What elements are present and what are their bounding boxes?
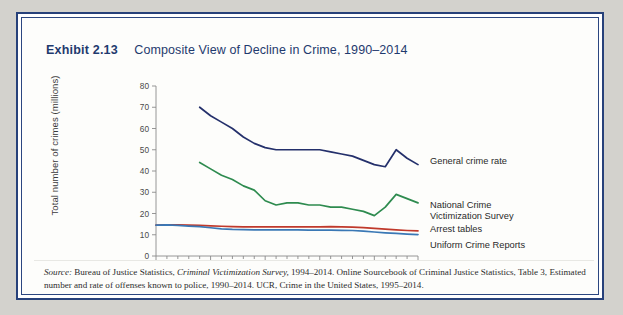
y-tick-label: 10 [140,230,150,240]
series-line [200,107,418,167]
series-line [200,163,418,216]
source-text-b: 1994–2014. Online Sourcebook of Criminal… [289,267,516,277]
exhibit-heading: Exhibit 2.13 Composite View of Decline i… [46,40,408,58]
y-tick-label: 60 [140,124,150,134]
series-label: Uniform Crime Reports [430,240,525,250]
series-label: General crime rate [430,156,507,166]
page-background: Exhibit 2.13 Composite View of Decline i… [0,0,623,315]
exhibit-card-inner-border: Exhibit 2.13 Composite View of Decline i… [21,17,599,295]
source-italic-title: Criminal Victimization Survey, [177,267,289,277]
series-label: Victimization Survey [430,211,514,221]
chart-container: Total number of crimes (millions) 010203… [22,62,610,262]
series-label: Arrest tables [430,224,483,234]
y-tick-label: 20 [140,209,150,219]
source-text-a: Bureau of Justice Statistics, [72,267,177,277]
series-label: National Crime [430,200,491,210]
line-chart: 0102030405060708019901995200020052010201… [22,62,610,262]
source-note: Source: Bureau of Justice Statistics, Cr… [44,266,586,292]
exhibit-card: Exhibit 2.13 Composite View of Decline i… [16,12,604,300]
exhibit-title: Composite View of Decline in Crime, 1990… [134,43,407,57]
y-tick-label: 30 [140,187,150,197]
y-tick-label: 40 [140,166,150,176]
y-tick-label: 80 [140,81,150,91]
y-tick-label: 70 [140,102,150,112]
y-tick-label: 50 [140,145,150,155]
source-divider [34,260,594,261]
source-label: Source: [44,267,72,277]
exhibit-content: Exhibit 2.13 Composite View of Decline i… [22,18,598,294]
